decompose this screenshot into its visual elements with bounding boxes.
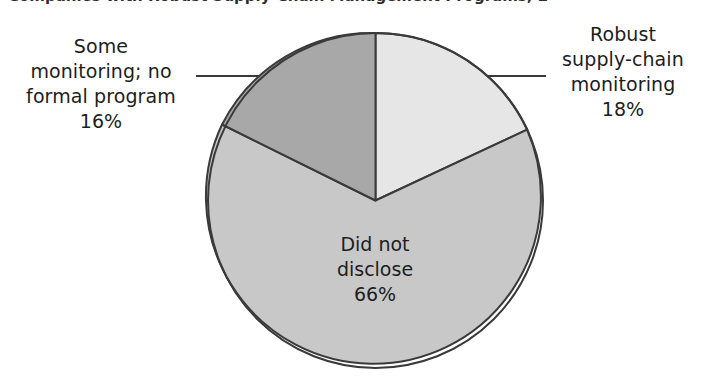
some-monitoring-label: Some monitoring; no formal program 16% [8, 34, 194, 134]
chart-canvas: Companies with Robust Supply-Chain Manag… [0, 0, 704, 386]
robust-monitoring-value: 18% [548, 97, 698, 122]
some-monitoring-label-line-1: Some [8, 34, 194, 59]
robust-monitoring-label-line-3: monitoring [548, 72, 698, 97]
robust-monitoring-label: Robust supply-chain monitoring 18% [548, 22, 698, 122]
some-monitoring-value: 16% [8, 109, 194, 134]
did-not-disclose-label-line-1: Did not [275, 232, 475, 257]
some-monitoring-label-line-3: formal program [8, 84, 194, 109]
did-not-disclose-label-line-2: disclose [275, 257, 475, 282]
robust-monitoring-label-line-2: supply-chain [548, 47, 698, 72]
did-not-disclose-value: 66% [275, 282, 475, 307]
some-monitoring-label-line-2: monitoring; no [8, 59, 194, 84]
robust-monitoring-label-line-1: Robust [548, 22, 698, 47]
did-not-disclose-label: Did not disclose 66% [275, 232, 475, 307]
